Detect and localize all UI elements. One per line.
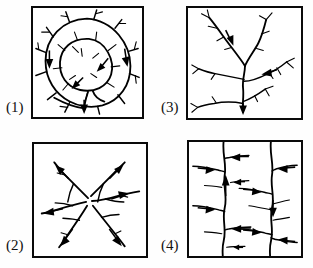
panel-label-4: (4) xyxy=(161,238,179,253)
panel-box-trellis xyxy=(187,140,303,258)
flow-arrow-mid-bottom xyxy=(233,244,243,250)
annular-drainage-diagram xyxy=(33,8,142,117)
panel-box-radial xyxy=(32,142,148,258)
flow-arrow-mid-small xyxy=(233,179,245,186)
dendritic-drainage-diagram xyxy=(188,8,301,118)
panel-label-2: (2) xyxy=(6,238,24,253)
flow-arrow-w xyxy=(43,208,63,216)
flow-arrow-trunk1-down xyxy=(222,175,230,196)
flow-arrow-outlet xyxy=(80,100,88,114)
drainage-pattern-figure: (1) xyxy=(0,0,313,268)
flow-arrow-ne xyxy=(109,164,123,178)
flow-arrow-e xyxy=(111,191,129,199)
flow-arrow-inner-lower xyxy=(72,77,84,89)
flow-arrow-inner xyxy=(97,58,109,72)
panel-box-annular xyxy=(31,6,144,119)
panel-box-dendritic xyxy=(186,6,303,120)
flow-arrow-right-lower xyxy=(278,237,295,245)
flow-arrow-mid-upper xyxy=(231,154,249,162)
flow-arrow-right-upper xyxy=(278,165,295,173)
radial-drainage-diagram xyxy=(34,144,146,256)
panel-label-1: (1) xyxy=(6,100,24,115)
flow-arrow-sw xyxy=(60,229,73,246)
panel-label-3: (3) xyxy=(161,100,179,115)
flow-arrow-nw xyxy=(55,165,69,179)
flow-arrow-outlet xyxy=(239,104,247,116)
trellis-drainage-diagram xyxy=(189,142,301,256)
